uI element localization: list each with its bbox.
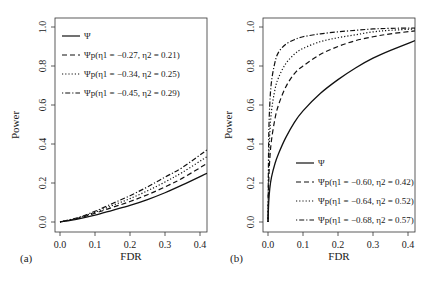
legend-label: Ψp(η1 = −0.45, η2 = 0.29): [84, 88, 180, 98]
x-tick-label: 0.0: [54, 239, 67, 250]
x-tick-label: 0.4: [194, 239, 207, 250]
y-tick-label: 0.8: [245, 60, 256, 73]
x-tick-label: 0.1: [89, 239, 102, 250]
legend-a: ΨΨp(η1 = −0.27, η2 = 0.21)Ψp(η1 = −0.34,…: [62, 31, 180, 98]
x-tick-label: 0.0: [262, 239, 275, 250]
x-axis-a: 0.00.10.20.30.4: [54, 232, 207, 250]
series-line-dashed: [60, 164, 207, 223]
panel-label-a: (a): [20, 252, 33, 265]
y-tick-label: 0.0: [245, 216, 256, 229]
y-tick-label: 0.2: [245, 177, 256, 190]
x-tick-label: 0.2: [332, 239, 345, 250]
y-axis-b: 0.00.20.40.60.81.0: [245, 21, 263, 229]
x-tick-label: 0.3: [367, 239, 380, 250]
y-tick-label: 0.8: [37, 60, 48, 73]
legend-label: Ψp(η1 = −0.27, η2 = 0.21): [84, 50, 180, 60]
y-tick-label: 1.0: [245, 21, 256, 34]
y-tick-label: 0.4: [245, 138, 256, 151]
figure: 0.00.20.40.60.81.0 0.00.10.20.30.4 ΨΨp(η…: [0, 0, 437, 287]
x-axis-title-b: FDR: [328, 250, 350, 262]
legend-label: Ψ: [84, 31, 91, 41]
y-axis-title-a: Power: [9, 111, 21, 139]
x-tick-label: 0.2: [124, 239, 137, 250]
series-line-dotdash: [60, 150, 207, 222]
x-tick-label: 0.4: [402, 239, 415, 250]
y-axis-title-b: Power: [222, 111, 234, 139]
series-line-dashed: [268, 31, 415, 222]
x-tick-label: 0.1: [297, 239, 310, 250]
y-tick-label: 0.6: [37, 99, 48, 112]
legend-label: Ψp(η1 = −0.68, η2 = 0.57): [318, 215, 414, 225]
x-axis-b: 0.00.10.20.30.4: [262, 232, 415, 250]
y-tick-label: 0.2: [37, 177, 48, 190]
y-axis-a: 0.00.20.40.60.81.0: [37, 21, 55, 229]
panel-a: 0.00.20.40.60.81.0 0.00.10.20.30.4 ΨΨp(η…: [9, 18, 207, 265]
series-line-solid: [268, 41, 415, 222]
legend-label: Ψ: [318, 158, 325, 168]
y-tick-label: 0.0: [37, 216, 48, 229]
legend-label: Ψp(η1 = −0.34, η2 = 0.25): [84, 69, 180, 79]
x-axis-title-a: FDR: [120, 250, 142, 262]
legend-label: Ψp(η1 = −0.60, η2 = 0.42): [318, 177, 414, 187]
series-line-dotted: [268, 29, 415, 222]
panel-label-b: (b): [230, 252, 243, 265]
x-tick-label: 0.3: [159, 239, 172, 250]
legend-b: ΨΨp(η1 = −0.60, η2 = 0.42)Ψp(η1 = −0.64,…: [296, 158, 414, 225]
y-tick-label: 1.0: [37, 21, 48, 34]
panel-b: 0.00.20.40.60.81.0 0.00.10.20.30.4 ΨΨp(η…: [222, 18, 415, 265]
series-line-dotdash: [268, 28, 415, 222]
series-lines-b: [268, 28, 415, 222]
legend-label: Ψp(η1 = −0.64, η2 = 0.52): [318, 196, 414, 206]
series-lines-a: [60, 150, 207, 222]
y-tick-label: 0.6: [245, 99, 256, 112]
y-tick-label: 0.4: [37, 138, 48, 151]
